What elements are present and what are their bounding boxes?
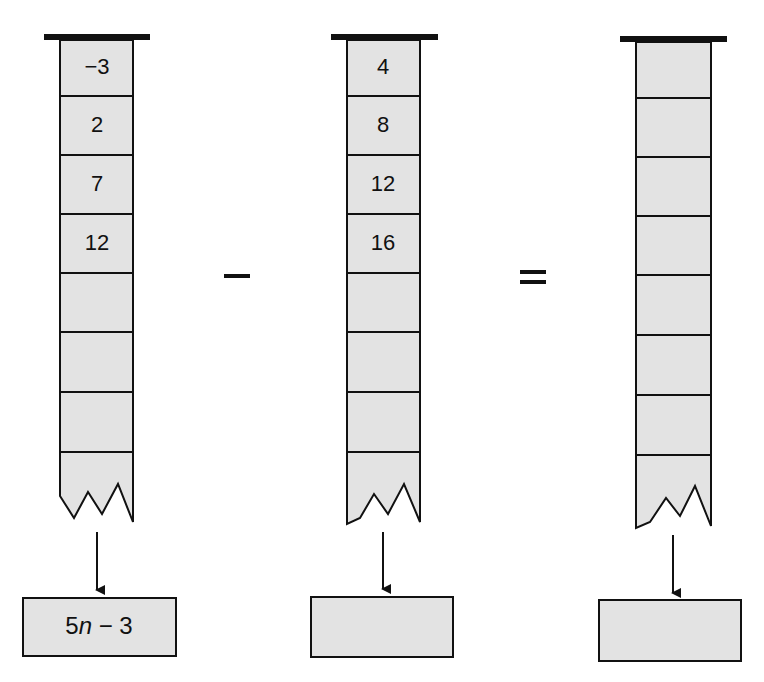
formula-coefficient: 5: [65, 612, 78, 639]
output-box: [599, 600, 741, 661]
minus-operator-icon: [224, 274, 250, 278]
sequence-cell: 2: [91, 112, 103, 137]
sequence-cell: 4: [377, 54, 389, 79]
sequence-cell: 8: [377, 112, 389, 137]
sequence-cell: 7: [91, 171, 103, 196]
sequence-cell: 12: [85, 230, 109, 255]
sequence-cell: −3: [84, 54, 109, 79]
sequence-column-left: −3 2 7 12 5n − 3: [23, 34, 176, 656]
sequence-subtraction-diagram: −3 2 7 12 5n − 3 4 8 12 16: [0, 0, 764, 682]
formula-variable: n: [79, 612, 92, 639]
formula-constant: − 3: [92, 612, 133, 639]
sequence-cell: 12: [371, 171, 395, 196]
output-box: [311, 597, 453, 657]
equals-operator-icon: [520, 270, 546, 284]
output-formula: 5n − 3: [65, 612, 132, 639]
sequence-cell: 16: [371, 230, 395, 255]
